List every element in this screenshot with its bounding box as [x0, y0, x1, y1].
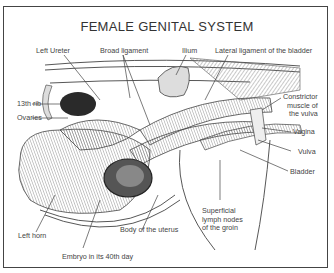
- label-ovaries: Ovaries: [17, 114, 42, 123]
- label-left-horn: Left horn: [18, 232, 46, 241]
- label-embryo: Embryo in its 40th day: [62, 253, 133, 262]
- label-superficial-lymph-nodes: Superficial lymph nodes of the groin: [202, 207, 243, 233]
- label-bladder: Bladder: [290, 168, 315, 177]
- label-constrictor: Constrictor muscle of the vulva: [283, 93, 318, 119]
- label-ilium: Ilium: [182, 47, 197, 56]
- label-lateral-ligament: Lateral ligament of the bladder: [215, 47, 312, 56]
- label-13th-rib: 13th rib: [17, 100, 41, 109]
- label-vulva: Vulva: [298, 148, 316, 157]
- rib-13: [42, 85, 52, 120]
- label-left-ureter: Left Ureter: [36, 47, 70, 56]
- label-body-of-uterus: Body of the uterus: [120, 226, 178, 235]
- label-broad-ligament: Broad ligament: [100, 47, 148, 56]
- ovary-dark: [60, 92, 96, 116]
- ilium-bone: [158, 66, 189, 97]
- label-vagina: Vagina: [293, 128, 315, 137]
- uterine-horns: [19, 98, 272, 214]
